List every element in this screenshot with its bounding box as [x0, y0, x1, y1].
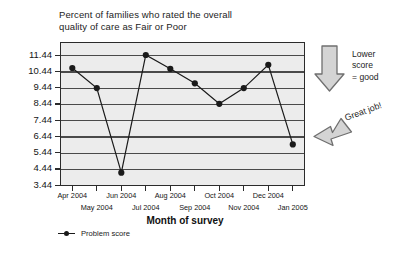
- y-axis-tick-label: 3.44: [8, 179, 52, 190]
- gridline: [61, 55, 304, 56]
- gridline: [61, 88, 304, 89]
- x-axis-tick-label: Jan 2005: [270, 203, 316, 212]
- y-axis-tick-label: 6.44: [8, 130, 52, 141]
- y-axis-tick: [55, 87, 60, 88]
- x-axis-tick-label: Nov 2004: [221, 203, 267, 212]
- chart-title-line-2: quality of care as Fair or Poor: [59, 21, 187, 32]
- annotation-score: score: [352, 60, 373, 70]
- x-axis-tick: [292, 186, 293, 191]
- chart-title-line-1: Percent of families who rated the overal…: [59, 9, 232, 20]
- y-axis-tick: [55, 55, 60, 56]
- y-axis-tick: [55, 103, 60, 104]
- y-axis-tick: [55, 71, 60, 72]
- y-axis-tick: [55, 120, 60, 121]
- gridline: [61, 120, 304, 121]
- x-axis-tick: [96, 186, 97, 191]
- x-axis-tick-label: Apr 2004: [49, 191, 95, 200]
- legend-label-problem-score: Problem score: [81, 229, 130, 238]
- x-axis-tick-label: Sep 2004: [172, 203, 218, 212]
- gridline: [61, 104, 304, 105]
- x-axis-tick-label: Oct 2004: [196, 191, 242, 200]
- y-axis-tick: [55, 185, 60, 186]
- x-axis-tick: [243, 186, 244, 191]
- y-axis-tick: [55, 168, 60, 169]
- great-job-label: Great job!: [343, 100, 383, 123]
- y-axis-tick: [55, 136, 60, 137]
- x-axis-title: Month of survey: [120, 215, 250, 226]
- x-axis-tick-label: Jun 2004: [98, 191, 144, 200]
- gridline: [61, 136, 304, 137]
- x-axis-tick-label: Jul 2004: [123, 203, 169, 212]
- y-axis-tick: [55, 152, 60, 153]
- gridline: [61, 153, 304, 154]
- lower-score-good-arrow-icon: [315, 46, 344, 91]
- y-axis-tick-label: 8.44: [8, 97, 52, 108]
- legend-marker-icon: [58, 230, 75, 238]
- x-axis-tick-label: May 2004: [74, 203, 120, 212]
- x-axis-tick-label: Dec 2004: [245, 191, 291, 200]
- x-axis-tick-label: Aug 2004: [147, 191, 193, 200]
- x-axis-tick: [145, 186, 146, 191]
- x-axis-tick: [194, 186, 195, 191]
- y-axis-tick-label: 4.44: [8, 162, 52, 173]
- y-axis-tick-label: 7.44: [8, 114, 52, 125]
- chart-container: Percent of families who rated the overal…: [0, 0, 411, 253]
- y-axis-tick-label: 11.44: [8, 49, 52, 60]
- annotation-lower: Lower: [352, 49, 375, 59]
- plot-area: [60, 42, 305, 186]
- chart-title: Percent of families who rated the overal…: [59, 9, 309, 33]
- chart-legend: Problem score: [58, 229, 130, 238]
- gridline: [61, 169, 304, 170]
- y-axis-tick-label: 9.44: [8, 81, 52, 92]
- annotation-good: = good: [352, 72, 379, 82]
- y-axis-tick-label: 5.44: [8, 146, 52, 157]
- gridline: [61, 71, 304, 72]
- y-axis-tick-label: 10.44: [8, 65, 52, 76]
- lower-score-good-label: Lower score = good: [352, 49, 410, 83]
